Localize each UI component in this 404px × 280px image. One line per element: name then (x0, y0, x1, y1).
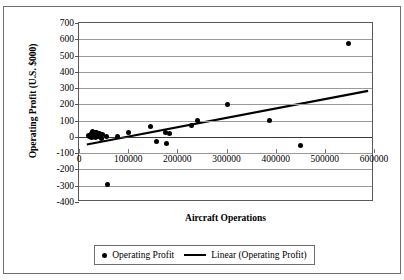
legend-label-operating-profit: Operating Profit (112, 250, 174, 260)
x-axis-tick (79, 149, 80, 153)
y-axis-tick-label: -100 (40, 148, 74, 158)
y-axis-tick (75, 202, 79, 203)
x-axis-tick-label: 100000 (114, 154, 143, 164)
x-axis-tick (227, 149, 228, 153)
x-axis-tick (325, 149, 326, 153)
scatter-point (105, 182, 110, 187)
x-axis-tick-label: 0 (77, 154, 82, 164)
gridline-horizontal (79, 169, 372, 170)
x-axis-tick (276, 149, 277, 153)
trendline-svg (79, 23, 372, 200)
plot-area: 7006005004003002001000-100-200-300-40001… (78, 22, 373, 201)
y-axis-tick-label: 500 (40, 51, 74, 61)
legend-dot-marker-icon (102, 253, 107, 258)
x-axis-tick-label: 600000 (360, 154, 389, 164)
y-axis-tick-label: -200 (40, 164, 74, 174)
y-axis-tick (75, 121, 79, 122)
gridline-horizontal (79, 72, 372, 73)
y-axis-tick (75, 39, 79, 40)
legend-item-operating-profit: Operating Profit (102, 250, 174, 260)
chart-legend: Operating Profit Linear (Operating Profi… (94, 245, 315, 265)
x-axis-tick-label: 200000 (163, 154, 192, 164)
x-axis-tick-label: 500000 (311, 154, 340, 164)
y-axis-tick-label: -300 (40, 181, 74, 191)
y-axis-tick-label: 0 (40, 132, 74, 142)
y-axis-tick (75, 56, 79, 57)
scatter-point (225, 102, 230, 107)
y-axis-tick-label: 300 (40, 83, 74, 93)
y-axis-tick (75, 169, 79, 170)
legend-item-linear-trend: Linear (Operating Profit) (184, 250, 307, 260)
gridline-horizontal (79, 39, 372, 40)
x-axis-tick-label: 300000 (212, 154, 241, 164)
y-axis-tick-label: 600 (40, 34, 74, 44)
gridline-horizontal (79, 56, 372, 57)
y-axis-tick (75, 186, 79, 187)
y-axis-title: Operating Profit (U.S. $000) (28, 16, 38, 186)
y-axis-tick-label: 700 (40, 18, 74, 28)
legend-line-marker-icon (184, 254, 206, 257)
y-axis-tick-label: 200 (40, 99, 74, 109)
y-axis-tick (75, 72, 79, 73)
chart-figure: Operating Profit (U.S. $000) 70060050040… (0, 0, 404, 280)
x-axis-tick (128, 149, 129, 153)
x-axis-tick (177, 149, 178, 153)
y-axis-tick (75, 88, 79, 89)
y-axis-tick (75, 104, 79, 105)
x-axis-tick (374, 149, 375, 153)
x-axis-title: Aircraft Operations (78, 213, 373, 223)
legend-label-linear-trend: Linear (Operating Profit) (211, 250, 307, 260)
scatter-point (164, 141, 169, 146)
y-axis-tick-label: 100 (40, 116, 74, 126)
gridline-horizontal (79, 121, 372, 122)
scatter-point (104, 134, 109, 139)
x-axis-tick-label: 400000 (261, 154, 290, 164)
y-axis-tick-label: -400 (40, 197, 74, 207)
y-axis-tick-label: 400 (40, 67, 74, 77)
scatter-point (189, 123, 194, 128)
x-axis-line (79, 137, 372, 138)
y-axis-tick (75, 23, 79, 24)
gridline-horizontal (79, 88, 372, 89)
gridline-horizontal (79, 186, 372, 187)
